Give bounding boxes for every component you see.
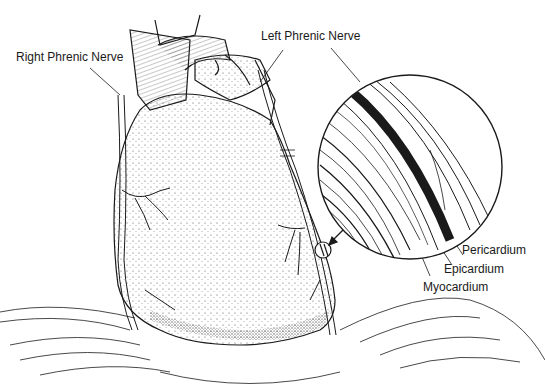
label-left-phrenic-nerve: Left Phrenic Nerve xyxy=(261,30,360,42)
heart xyxy=(114,94,335,345)
inset-magnified-view xyxy=(318,75,502,260)
label-right-phrenic-nerve: Right Phrenic Nerve xyxy=(16,51,123,63)
label-epicardium: Epicardium xyxy=(444,263,504,275)
label-pericardium: Pericardium xyxy=(462,244,526,256)
anatomical-illustration: Right Phrenic Nerve Left Phrenic Nerve P… xyxy=(0,0,545,390)
label-myocardium: Myocardium xyxy=(423,281,488,293)
